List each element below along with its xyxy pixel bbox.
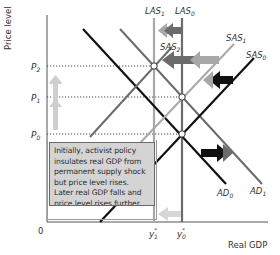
sas-shift-arrow-upper xyxy=(162,51,219,69)
sas1-label: SAS1 xyxy=(226,33,246,44)
equilibrium-point-2 xyxy=(151,63,157,69)
sas0-label: SAS0 xyxy=(246,50,267,61)
price-rise-arrow-lower xyxy=(49,99,62,130)
y-axis-label: Price level xyxy=(3,6,13,50)
annotation-line: permanent supply shock xyxy=(54,167,151,178)
annotation-box: Initially, activist policy insulates rea… xyxy=(49,142,155,206)
p2-label: P2 xyxy=(31,62,40,73)
annotation-line: insulates real GDP from xyxy=(54,157,151,168)
potential-gdp-shift-arrow xyxy=(158,207,181,221)
sas2-label: SAS2 xyxy=(160,42,181,53)
origin-label: 0 xyxy=(38,226,43,236)
y0-star-label: y*0 xyxy=(176,227,186,240)
equilibrium-point-1 xyxy=(179,94,185,100)
p0-label: P0 xyxy=(31,130,40,141)
las1-label: LAS1 xyxy=(145,6,165,17)
ad1-label: AD1 xyxy=(249,186,266,197)
p1-label: P1 xyxy=(31,93,40,104)
annotation-line: Initially, activist policy xyxy=(54,146,151,157)
annotation-line: price level rises further xyxy=(54,199,151,206)
x-axis-label: Real GDP xyxy=(228,240,267,250)
equilibrium-point-0 xyxy=(179,131,185,137)
annotation-line: Later real GDP falls and xyxy=(54,188,151,199)
y1-star-label: y*1 xyxy=(148,227,158,240)
annotation-line: but price level rises. xyxy=(54,178,151,189)
ad0-label: AD0 xyxy=(216,188,233,199)
price-rise-arrow-upper xyxy=(49,75,62,95)
las0-label: LAS0 xyxy=(175,6,195,17)
las-shift-arrow xyxy=(158,23,181,38)
